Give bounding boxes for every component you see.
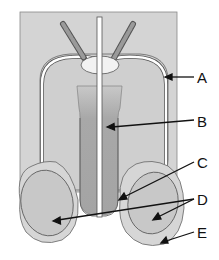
- right-ovoid: [120, 161, 184, 245]
- label-e: E: [197, 225, 207, 240]
- anatomy-diagram: [0, 0, 219, 260]
- label-b: B: [197, 114, 207, 129]
- label-c: C: [197, 155, 208, 170]
- central-duct: [97, 17, 102, 217]
- label-d: D: [197, 192, 208, 207]
- label-a: A: [197, 70, 207, 85]
